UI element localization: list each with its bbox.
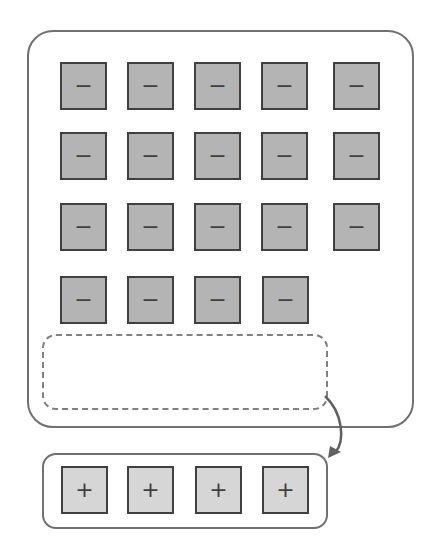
plus-tile[interactable]: + [262,466,309,514]
plus-tile[interactable]: + [61,466,108,514]
plus-icon: + [264,468,307,512]
plus-tile[interactable]: + [127,466,174,514]
plus-icon: + [129,468,172,512]
plus-tile[interactable]: + [195,466,242,514]
plus-icon: + [197,468,240,512]
plus-icon: + [63,468,106,512]
